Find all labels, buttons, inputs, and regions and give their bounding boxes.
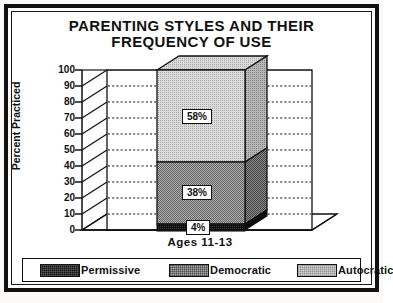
y-tick-40: 40 [49, 161, 75, 171]
y-axis [75, 70, 82, 230]
legend-label-autocratic: Autocratic [338, 264, 393, 276]
legend-label-permissive: Permissive [81, 264, 140, 276]
y-tick-100: 100 [49, 65, 75, 75]
data-label-democratic: 38% [182, 185, 212, 200]
y-tick-30: 30 [49, 177, 75, 187]
y-tick-0: 0 [49, 225, 75, 235]
chart-legend: Permissive Democratic Autocratic [22, 258, 361, 282]
legend-label-democratic: Democratic [210, 264, 271, 276]
legend-swatch-democratic-icon [169, 264, 209, 277]
y-tick-80: 80 [49, 97, 75, 107]
y-tick-10: 10 [49, 209, 75, 219]
legend-item-autocratic[interactable]: Autocratic [297, 259, 393, 281]
legend-swatch-permissive-icon [40, 264, 80, 277]
y-tick-60: 60 [49, 129, 75, 139]
y-axis-depth-connectors [82, 70, 107, 230]
legend-item-permissive[interactable]: Permissive [40, 259, 140, 281]
x-axis-category-label: Ages 11-13 [120, 236, 280, 248]
legend-swatch-autocratic-icon [297, 264, 337, 277]
data-label-autocratic: 58% [182, 109, 212, 124]
y-tick-20: 20 [49, 193, 75, 203]
y-axis-title: Percent Practiced [10, 66, 22, 186]
y-tick-50: 50 [49, 145, 75, 155]
y-tick-70: 70 [49, 113, 75, 123]
y-axis-tick-labels: 100 90 80 70 60 50 40 30 20 10 0 [49, 70, 75, 230]
data-label-permissive: 4% [186, 220, 210, 235]
legend-item-democratic[interactable]: Democratic [169, 259, 271, 281]
y-tick-90: 90 [49, 81, 75, 91]
